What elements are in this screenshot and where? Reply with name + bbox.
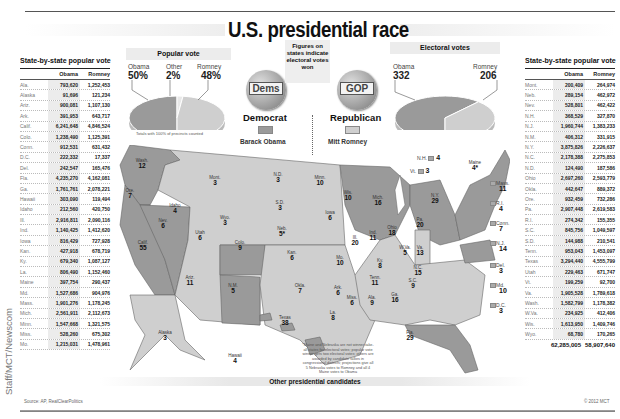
- table-row: Ariz.900,0811,107,130: [20, 101, 110, 111]
- state-name: Pa.: [525, 206, 553, 212]
- romney-votes: 631,432: [80, 144, 110, 150]
- state-label: N.M.5: [221, 283, 245, 293]
- romney-votes: 2,112,673: [80, 310, 110, 316]
- obama-votes: 68,780: [553, 329, 585, 338]
- state-name: Hawaii: [20, 196, 48, 202]
- ev-label-obama: Obama: [393, 63, 414, 70]
- state-name: Vt.: [525, 279, 553, 285]
- obama-votes: 144,988: [553, 236, 585, 245]
- state-label: Ark.6: [326, 285, 350, 295]
- romney-votes: 889,372: [585, 186, 615, 192]
- state-label: Mont.3: [203, 175, 227, 185]
- callout-mass: Mass. 11: [490, 180, 509, 192]
- pie-label-obama: Obama: [128, 63, 149, 70]
- obama-votes: 900,081: [48, 101, 80, 110]
- state-name: Tenn.: [525, 248, 553, 254]
- romney-votes: 2,593,779: [585, 175, 615, 181]
- obama-votes: 3,294,440: [553, 257, 585, 266]
- obama-votes: 397,754: [48, 277, 80, 286]
- state-label: S.D.3: [268, 200, 292, 210]
- dems-badge-icon: Dems: [246, 70, 286, 110]
- state-ev: 10: [336, 195, 360, 200]
- copyright-note: © 2012 MCT: [584, 399, 610, 404]
- state-name: Iowa: [20, 238, 48, 244]
- obama-votes: 845,756: [553, 225, 585, 234]
- state-label: Colo.9: [228, 240, 252, 250]
- table-row: Utah229,463671,747: [525, 267, 615, 277]
- democrat-label: Democrat: [243, 112, 287, 123]
- romney-votes: 187,586: [585, 165, 615, 171]
- state-name: Wis.: [525, 321, 553, 327]
- state-name: Nev.: [525, 102, 553, 108]
- col-obama: Obama: [553, 71, 585, 77]
- state-ev: 5: [221, 288, 245, 293]
- table-row: N.J.1,960,7441,383,233: [525, 122, 615, 132]
- other-candidates-band: Other presidential candidates: [100, 377, 530, 386]
- obama-votes: 1,901,276: [48, 298, 80, 307]
- state-ev: 6: [151, 223, 175, 228]
- table-row: R.I.274,342155,355: [525, 215, 615, 225]
- table-row: Ind.1,140,4251,412,620: [20, 225, 110, 235]
- obama-votes: 2,561,911: [48, 309, 80, 318]
- state-name: Ky.: [20, 258, 48, 264]
- state-name: R.I.: [525, 217, 553, 223]
- callout-del: Del. 3: [490, 262, 505, 274]
- obama-votes: 229,463: [553, 267, 585, 276]
- state-name: N.H.: [525, 113, 553, 119]
- state-name: Ind.: [20, 227, 48, 233]
- state-ev: 9: [360, 300, 384, 305]
- callout-ev: 3: [499, 307, 503, 314]
- state-ev: 3: [203, 180, 227, 185]
- col-state: [20, 71, 48, 77]
- state-label: Iowa6: [318, 210, 342, 220]
- title-band-right: [400, 24, 615, 36]
- obama-votes: 1,582,799: [553, 298, 585, 307]
- state-label: Okla.7: [288, 283, 312, 293]
- state-name: Mich.: [20, 310, 48, 316]
- romney-votes: 155,355: [585, 217, 615, 223]
- table-row: Wyo.68,780170,265: [525, 329, 615, 339]
- state-name: Ariz.: [20, 102, 48, 108]
- table-row: N.M.406,312331,915: [525, 132, 615, 142]
- romney-votes: 4,162,081: [80, 175, 110, 181]
- romney-votes: 2,090,116: [80, 217, 110, 223]
- callout-md: Md. 10: [490, 282, 507, 294]
- table-row: Conn.912,531631,432: [20, 142, 110, 152]
- callout-ev: 3: [499, 267, 503, 274]
- state-label: Wyo.3: [213, 215, 237, 225]
- callout-ev: 11: [499, 185, 506, 192]
- callout-ev: 4: [434, 154, 440, 161]
- state-name: W.Va.: [525, 310, 553, 316]
- state-ev: 10: [308, 180, 332, 185]
- romney-votes: 4,846,524: [80, 123, 110, 129]
- bottom-rule: [20, 410, 615, 412]
- romney-votes: 1,152,460: [80, 269, 110, 275]
- romney-votes: 327,870: [585, 113, 615, 119]
- obama-votes: 1,527,686: [48, 288, 80, 297]
- state-ev: 4: [163, 208, 187, 213]
- state-label: Ala.9: [360, 295, 384, 305]
- table-row: Md.1,527,686904,976: [20, 288, 110, 298]
- state-name: D.C.: [20, 154, 48, 160]
- state-ev: 20: [343, 240, 367, 245]
- state-ev: 16: [366, 200, 390, 205]
- pie-slice-romney: [177, 96, 225, 130]
- table-row: Ala.793,6201,252,453: [20, 80, 110, 90]
- state-name: Mont.: [525, 82, 553, 88]
- state-label: Ga.16: [383, 292, 407, 302]
- state-name: Fla.: [20, 175, 48, 181]
- pie-label-other: Other: [166, 63, 182, 70]
- state-name: Ark.: [20, 113, 48, 119]
- table-row: W.Va.234,925412,406: [525, 309, 615, 319]
- state-label: Hawaii4: [223, 353, 247, 363]
- romney-votes: 412,406: [585, 310, 615, 316]
- table-row: Nev.528,801462,422: [525, 101, 615, 111]
- table-header: Obama Romney: [20, 68, 110, 80]
- table-row: D.C.222,33217,337: [20, 153, 110, 163]
- romney-votes: 1,412,620: [80, 227, 110, 233]
- obama-votes: 91,696: [48, 90, 80, 99]
- leader-line-romney: [483, 80, 497, 100]
- callout-ev: 7: [499, 225, 503, 232]
- col-obama: Obama: [48, 71, 80, 77]
- state-ev: 12: [130, 163, 154, 168]
